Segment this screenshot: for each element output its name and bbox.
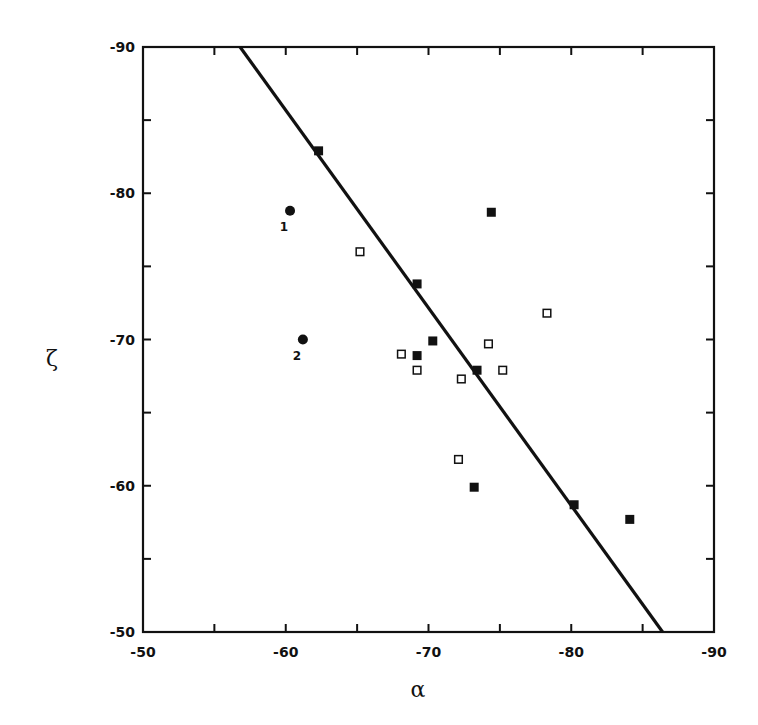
- filled-square-marker: [413, 279, 422, 288]
- axis-ticks: -50-60-70-80-90-50-60-70-80-90: [110, 39, 727, 660]
- y-tick-label: -60: [110, 478, 136, 494]
- y-tick-label: -80: [110, 185, 136, 201]
- y-axis-title: ζ: [46, 346, 58, 371]
- open-square-marker: [499, 366, 507, 374]
- filled-square-marker: [570, 500, 579, 509]
- y-tick-label: -90: [110, 39, 136, 55]
- open-square-marker: [458, 375, 466, 383]
- filled-square-marker: [314, 146, 323, 155]
- open-square-marker: [485, 340, 493, 348]
- point-label: 1: [280, 220, 288, 234]
- filled-circle-marker: [298, 335, 308, 345]
- x-tick-label: -90: [701, 644, 727, 660]
- filled-square-marker: [428, 336, 437, 345]
- y-tick-label: -50: [110, 624, 136, 640]
- data-points: 12: [280, 146, 634, 524]
- x-tick-label: -60: [273, 644, 299, 660]
- x-tick-label: -70: [416, 644, 442, 660]
- x-tick-label: -50: [130, 644, 156, 660]
- open-square-marker: [356, 248, 364, 256]
- scatter-chart: -50-60-70-80-90-50-60-70-80-90 12 α ζ: [0, 0, 758, 725]
- y-tick-label: -70: [110, 332, 136, 348]
- filled-square-marker: [625, 515, 634, 524]
- x-tick-label: -80: [559, 644, 585, 660]
- filled-square-marker: [413, 351, 422, 360]
- open-square-marker: [455, 456, 463, 464]
- filled-square-marker: [487, 208, 496, 217]
- filled-square-marker: [473, 366, 482, 375]
- x-axis-title: α: [411, 677, 426, 702]
- open-square-marker: [413, 366, 421, 374]
- filled-circle-marker: [285, 206, 295, 216]
- point-label: 2: [293, 349, 301, 363]
- open-square-marker: [543, 309, 551, 317]
- open-square-marker: [398, 350, 406, 358]
- filled-square-marker: [470, 483, 479, 492]
